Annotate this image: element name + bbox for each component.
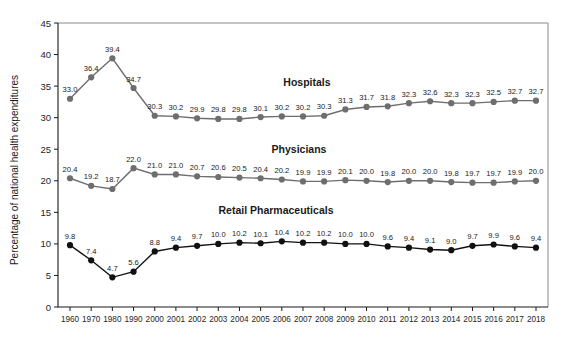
data-point-label: 22.0: [126, 155, 141, 164]
data-point: [363, 178, 369, 184]
data-point: [215, 116, 221, 122]
data-point-label: 32.7: [529, 87, 544, 96]
data-point-label: 9.6: [382, 233, 393, 242]
data-point: [427, 178, 433, 184]
data-point-label: 33.0: [63, 85, 78, 94]
data-point-label: 32.6: [423, 88, 438, 97]
data-point-label: 9.8: [65, 232, 76, 241]
data-point: [300, 240, 306, 246]
data-point-label: 20.5: [232, 164, 247, 173]
data-point-label: 10.2: [317, 229, 332, 238]
y-tick-label: 35: [40, 81, 51, 92]
data-point: [109, 55, 115, 61]
x-tick-label: 2007: [294, 315, 313, 324]
data-point: [215, 241, 221, 247]
data-point-label: 20.6: [211, 163, 226, 172]
y-axis: 051015202530354045: [40, 18, 58, 313]
data-point: [406, 100, 412, 106]
data-point: [109, 186, 115, 192]
data-point: [173, 113, 179, 119]
data-point-label: 9.6: [510, 233, 521, 242]
y-tick-label: 40: [40, 49, 51, 60]
data-point-label: 20.0: [423, 167, 438, 176]
data-point-label: 19.8: [380, 169, 395, 178]
data-point-label: 7.4: [86, 247, 97, 256]
y-tick-label: 20: [40, 175, 51, 186]
data-point: [342, 241, 348, 247]
data-point: [533, 98, 539, 104]
x-tick-label: 1970: [82, 315, 101, 324]
data-point-label: 32.3: [402, 90, 417, 99]
data-point: [385, 179, 391, 185]
series-name-label: Hospitals: [283, 76, 330, 88]
x-tick-label: 2016: [485, 315, 504, 324]
x-axis: 1960197019801990200020012002200320042005…: [61, 307, 546, 324]
data-point-label: 32.5: [486, 88, 501, 97]
y-tick-label: 5: [46, 270, 51, 281]
data-point-label: 36.4: [84, 64, 99, 73]
data-point: [279, 238, 285, 244]
line-chart: 051015202530354045 196019701980199020002…: [0, 0, 565, 345]
data-point-label: 9.7: [467, 232, 478, 241]
data-point-label: 19.9: [507, 168, 522, 177]
data-point-label: 20.1: [338, 167, 353, 176]
x-tick-label: 2004: [230, 315, 249, 324]
data-point-label: 31.3: [338, 96, 353, 105]
data-point: [385, 103, 391, 109]
data-point-label: 20.0: [359, 167, 374, 176]
x-tick-label: 2010: [357, 315, 376, 324]
data-point-label: 30.2: [169, 103, 184, 112]
data-point: [469, 243, 475, 249]
data-point: [215, 174, 221, 180]
data-point: [533, 178, 539, 184]
data-point: [236, 175, 242, 181]
x-tick-label: 2017: [506, 315, 525, 324]
data-point: [363, 241, 369, 247]
x-tick-label: 2005: [252, 315, 271, 324]
data-point-label: 32.3: [444, 90, 459, 99]
x-tick-label: 1990: [124, 315, 143, 324]
series-retail-pharmaceuticals: 9.87.44.75.68.89.49.710.010.210.110.410.…: [65, 228, 542, 281]
data-point-label: 20.0: [529, 167, 544, 176]
data-point-label: 30.1: [253, 104, 268, 113]
data-point-label: 32.3: [465, 90, 480, 99]
data-point-label: 31.8: [380, 93, 395, 102]
data-point: [342, 106, 348, 112]
data-point: [236, 240, 242, 246]
x-tick-label: 2018: [527, 315, 546, 324]
data-point: [469, 180, 475, 186]
data-point-label: 19.7: [465, 169, 480, 178]
y-tick-label: 15: [40, 207, 51, 218]
data-point-label: 30.3: [147, 102, 162, 111]
data-point: [321, 113, 327, 119]
y-tick-label: 45: [40, 18, 51, 29]
data-point-label: 20.7: [190, 163, 205, 172]
x-tick-label: 2001: [167, 315, 186, 324]
data-point-label: 20.4: [253, 165, 268, 174]
data-point: [385, 243, 391, 249]
data-point: [448, 247, 454, 253]
data-point-label: 9.9: [488, 231, 499, 240]
data-point: [512, 243, 518, 249]
data-point-label: 19.9: [296, 168, 311, 177]
data-point: [300, 113, 306, 119]
data-point-label: 31.7: [359, 93, 374, 102]
data-point-label: 30.2: [296, 103, 311, 112]
data-point-label: 19.8: [444, 169, 459, 178]
data-point: [88, 74, 94, 80]
series-physicians: 20.419.218.722.021.021.020.720.620.520.4…: [63, 155, 544, 192]
data-point: [130, 165, 136, 171]
data-point: [258, 175, 264, 181]
data-point-label: 39.4: [105, 45, 120, 54]
data-point: [342, 177, 348, 183]
data-point-label: 19.9: [317, 168, 332, 177]
data-point-label: 9.0: [446, 237, 457, 246]
y-tick-label: 0: [46, 302, 51, 313]
data-point: [152, 113, 158, 119]
data-point: [321, 178, 327, 184]
data-point-label: 29.8: [211, 105, 226, 114]
data-point: [67, 175, 73, 181]
data-point: [512, 178, 518, 184]
data-point: [194, 243, 200, 249]
data-point: [406, 178, 412, 184]
